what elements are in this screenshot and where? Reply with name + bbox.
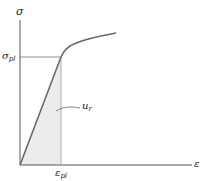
x-axis-label: ε [194, 159, 199, 169]
stress-pl-label: σpl [2, 51, 16, 63]
strain-pl-label: εpl [55, 168, 67, 180]
y-axis-label: σ [16, 6, 24, 17]
diagram-svg [0, 0, 207, 181]
ur-label: ur [82, 101, 92, 113]
stress-strain-diagram: σ σpl ur ε εpl [0, 0, 207, 181]
